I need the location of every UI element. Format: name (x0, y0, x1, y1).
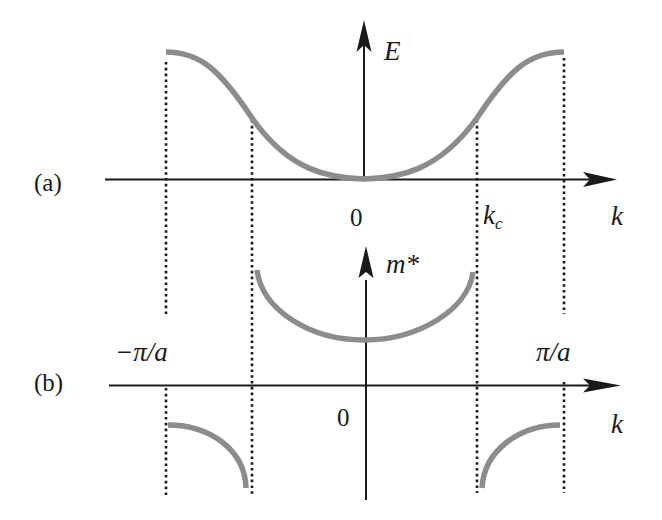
effective-mass-curves (168, 270, 560, 488)
effective-mass-negative-branch-left (168, 425, 246, 488)
pi-over-a-label: π/a (536, 339, 571, 366)
panel-b-k-axis-label: k (611, 411, 623, 438)
panel-b-m-arrowhead (359, 246, 374, 278)
diagram-canvas (0, 0, 662, 520)
energy-axis-label: E (384, 38, 401, 65)
panel-b-axes (109, 246, 621, 500)
panel-b-label: (b) (34, 370, 63, 395)
effective-mass-negative-branch-right (482, 425, 560, 488)
panel-a-origin-label: 0 (350, 205, 363, 230)
effective-mass-axis-label: m* (386, 251, 419, 278)
panel-a-k-axis-label: k (611, 203, 623, 230)
panel-b-origin-label: 0 (337, 405, 350, 430)
minus-pi-over-a-label: −π/a (115, 339, 168, 366)
kc-label: kc (483, 202, 503, 232)
panel-a-axes (105, 20, 617, 187)
band-diagram: (a) E 0 kc k m* −π/a π/a (b) 0 k (0, 0, 662, 520)
panel-a-label: (a) (34, 170, 62, 195)
